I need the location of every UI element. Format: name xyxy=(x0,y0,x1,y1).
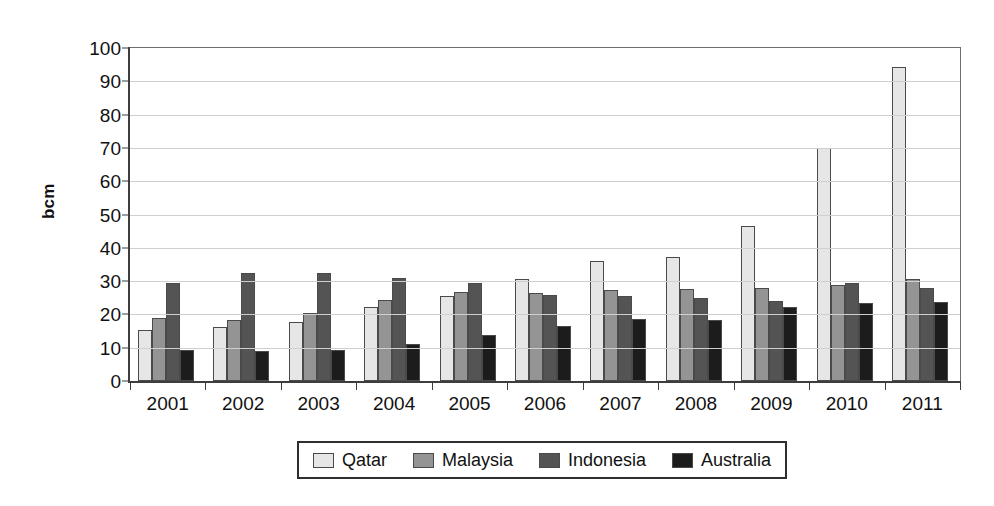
legend-entry: Australia xyxy=(672,451,771,469)
y-axis-tick-label: 30 xyxy=(100,272,121,291)
legend-entry: Qatar xyxy=(313,451,387,469)
bar xyxy=(255,351,269,381)
y-axis-tick-label: 80 xyxy=(100,105,121,124)
bar xyxy=(454,292,468,381)
y-axis-tick-mark xyxy=(122,281,130,282)
bar xyxy=(180,350,194,381)
y-axis-tick-label: 40 xyxy=(100,238,121,257)
bar xyxy=(741,226,755,381)
legend-entry: Indonesia xyxy=(539,451,646,469)
y-axis-tick-mark xyxy=(122,247,130,248)
bar xyxy=(378,300,392,381)
y-axis-tick-mark xyxy=(122,314,130,315)
bar xyxy=(755,288,769,381)
x-axis-tick-label: 2010 xyxy=(826,394,868,413)
y-axis-tick-label: 60 xyxy=(100,172,121,191)
bar xyxy=(227,320,241,381)
y-axis-tick-label: 90 xyxy=(100,72,121,91)
bar xyxy=(769,301,783,381)
bar xyxy=(392,278,406,381)
x-axis-tick-mark xyxy=(960,381,961,390)
x-axis-tick-mark xyxy=(356,381,357,390)
legend-label: Australia xyxy=(701,451,771,469)
x-axis-tick-label: 2006 xyxy=(524,394,566,413)
bar xyxy=(694,298,708,381)
gridline xyxy=(130,348,960,349)
x-axis-tick-label: 2004 xyxy=(373,394,415,413)
bar xyxy=(557,326,571,381)
bar xyxy=(632,319,646,381)
y-axis-tick-mark xyxy=(122,347,130,348)
legend-label: Indonesia xyxy=(568,451,646,469)
y-axis-tick-label: 50 xyxy=(100,205,121,224)
x-axis-tick-mark xyxy=(281,381,282,390)
x-axis-tick-label: 2002 xyxy=(222,394,264,413)
x-axis-tick-mark xyxy=(205,381,206,390)
x-axis-tick-mark xyxy=(432,381,433,390)
gridline xyxy=(130,281,960,282)
gridline xyxy=(130,81,960,82)
x-axis-tick-mark xyxy=(809,381,810,390)
y-axis-tick-mark xyxy=(122,381,130,382)
y-axis-tick-label: 20 xyxy=(100,305,121,324)
bar xyxy=(317,273,331,381)
bar xyxy=(831,285,845,381)
bar xyxy=(440,296,454,381)
legend-label: Malaysia xyxy=(442,451,513,469)
y-axis-tick-mark xyxy=(122,214,130,215)
y-axis-tick-mark xyxy=(122,114,130,115)
gridline xyxy=(130,248,960,249)
bar xyxy=(331,350,345,381)
x-axis-tick-mark xyxy=(130,381,131,390)
bar xyxy=(166,283,180,381)
x-axis-tick-label: 2008 xyxy=(675,394,717,413)
bar xyxy=(906,279,920,381)
bar xyxy=(920,288,934,381)
x-axis-tick-label: 2005 xyxy=(448,394,490,413)
bar xyxy=(406,344,420,381)
x-axis-tick-mark xyxy=(507,381,508,390)
bar xyxy=(543,295,557,381)
x-axis-tick-label: 2001 xyxy=(147,394,189,413)
y-axis-tick-mark xyxy=(122,147,130,148)
legend-swatch-icon xyxy=(413,453,434,468)
x-axis-tick-mark xyxy=(885,381,886,390)
bar xyxy=(213,327,227,381)
y-axis-tick-label: 0 xyxy=(110,372,121,391)
bar xyxy=(529,293,543,381)
bar xyxy=(708,320,722,381)
bar xyxy=(482,335,496,381)
x-axis-tick-mark xyxy=(658,381,659,390)
bar xyxy=(241,273,255,381)
legend-swatch-icon xyxy=(672,453,693,468)
legend-swatch-icon xyxy=(313,453,334,468)
bar xyxy=(783,307,797,381)
bar xyxy=(590,261,604,381)
gridline xyxy=(130,115,960,116)
legend-label: Qatar xyxy=(342,451,387,469)
bar xyxy=(515,279,529,381)
y-axis-tick-label: 10 xyxy=(100,338,121,357)
bar xyxy=(364,307,378,381)
bar xyxy=(604,290,618,381)
gridline xyxy=(130,181,960,182)
x-axis-tick-label: 2009 xyxy=(750,394,792,413)
x-axis-tick-label: 2003 xyxy=(297,394,339,413)
bar xyxy=(468,283,482,381)
bar xyxy=(138,330,152,381)
gridline xyxy=(130,314,960,315)
y-axis-title: bcm xyxy=(39,193,59,219)
gridline xyxy=(130,215,960,216)
bar xyxy=(817,148,831,381)
x-axis-tick-mark xyxy=(583,381,584,390)
plot-area: 0102030405060708090100200120022003200420… xyxy=(128,47,961,383)
bar xyxy=(289,322,303,381)
gridline xyxy=(130,148,960,149)
y-axis-tick-mark xyxy=(122,181,130,182)
bar xyxy=(666,257,680,381)
bar xyxy=(152,318,166,381)
x-axis-tick-label: 2007 xyxy=(599,394,641,413)
chart-legend: QatarMalaysiaIndonesiaAustralia xyxy=(297,441,787,479)
bar xyxy=(618,296,632,381)
bar xyxy=(680,289,694,381)
